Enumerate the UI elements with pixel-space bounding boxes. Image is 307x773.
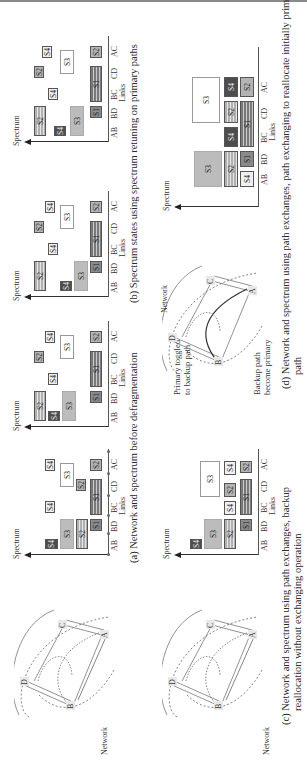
slot-s1: S1 (90, 351, 102, 387)
slot-s1: S1 (90, 261, 102, 273)
spectrum-chart-b2: Spectrum S2 S4 S3 S1 S4 S1 S2 S3 S4 S2 A… (12, 183, 122, 303)
slot-s1: S1 (90, 479, 102, 515)
slot-s2: S2 (34, 261, 46, 291)
slot-s3: S3 (200, 461, 220, 497)
y-axis (30, 554, 108, 555)
slot-s2: S2 (240, 77, 254, 97)
x-tick-ac: AC (110, 459, 119, 470)
x-axis-label: Links (118, 84, 127, 102)
spectrum-chart-a: Spectrum S4 S3 S2 S1 S4 S1 S2 S3 S4 S2 A… (12, 441, 122, 561)
x-axis-label: Links (118, 239, 127, 257)
slot-s2: S2 (76, 479, 86, 491)
spectrum-chart-b1: Spectrum S2 S4 S3 S1 S4 S1 S2 S3 S4 S2 A… (12, 313, 122, 433)
node-d-label: D (168, 679, 177, 685)
slot-s4: S4 (224, 501, 236, 515)
slot-s2: S2 (34, 351, 44, 363)
spectrum-chart-d: Spectrum S3 S2 S4 S1 S4 S1 S2 S3 S4 S2 A… (162, 33, 272, 213)
network-diagram-a: B D C A (14, 600, 124, 725)
x-tick-ab: AB (260, 540, 269, 551)
slot-s3: S3 (74, 261, 88, 291)
x-axis-label: Links (118, 497, 127, 515)
slot-s2: S2 (34, 66, 44, 78)
slot-s2: S2 (90, 459, 102, 471)
network-label-c: Network (262, 727, 271, 755)
node-a-label: A (248, 632, 257, 638)
x-tick-ab: AB (110, 127, 119, 138)
network-label-d: Network (160, 285, 169, 313)
slot-s3: S3 (204, 519, 222, 549)
x-tick-cd: CD (110, 223, 119, 234)
slot-s4: S4 (224, 127, 238, 147)
slot-s3: S3 (60, 519, 74, 549)
slot-s3: S3 (60, 205, 74, 229)
slot-s1: S1 (90, 391, 102, 403)
slot-s4: S4 (45, 539, 58, 549)
slot-s2: S2 (34, 391, 46, 421)
slot-s4: S4 (48, 411, 60, 421)
x-tick-cd: CD (110, 353, 119, 364)
x-tick-bd: BD (110, 393, 119, 404)
caption-c-line1: (c) Network and spectrum using path exch… (280, 487, 292, 725)
caption-b: (b) Spectrum states using spectrum retun… (128, 44, 140, 303)
slot-s4: S4 (60, 281, 72, 291)
x-tick-ac: AC (110, 331, 119, 342)
slot-s4: S4 (45, 459, 55, 471)
x-tick-ab: AB (110, 412, 119, 423)
slot-s3: S3 (70, 106, 84, 136)
slot-s4: S4 (45, 501, 55, 513)
x-tick-ac: AC (260, 82, 269, 93)
slot-s2: S2 (224, 151, 238, 187)
x-tick-ab: AB (110, 282, 119, 293)
figure-rotated: B D C A Network Spectrum S4 S3 S2 S1 S4 … (0, 0, 307, 773)
y-axis-label: Spectrum (12, 400, 21, 431)
node-c-label: C (58, 623, 67, 628)
node-d-label: D (168, 335, 177, 341)
y-axis-label: Spectrum (12, 270, 21, 301)
x-axis-label: Links (118, 369, 127, 387)
slot-s1: S1 (90, 221, 102, 257)
slot-s4: S4 (42, 46, 52, 58)
slot-s2: S2 (224, 483, 236, 497)
slot-s1: S1 (240, 101, 254, 147)
slot-s2: S2 (224, 101, 238, 123)
slot-s1: S1 (90, 519, 102, 531)
x-tick-cd: CD (110, 481, 119, 492)
slot-s4: S4 (224, 461, 236, 475)
x-tick-bd: BD (260, 154, 269, 165)
x-tick-cd: CD (110, 68, 119, 79)
slot-s3: S3 (60, 463, 74, 487)
slot-s4: S4 (240, 171, 254, 187)
x-tick-cd: CD (260, 481, 269, 492)
caption-c-line2: reallocation without exchanging operatio… (292, 533, 304, 711)
spectrum-chart-b3: Spectrum S2 S4 S3 S1 S4 S1 S2 S3 S4 S2 A… (12, 28, 122, 148)
y-axis-label: Spectrum (162, 180, 171, 211)
x-tick-ab: AB (110, 540, 119, 551)
slot-s4: S4 (45, 201, 55, 213)
slot-s2: S2 (34, 106, 46, 136)
x-axis-label: Links (268, 497, 277, 515)
x-tick-bd: BD (110, 108, 119, 119)
network-label-a: Network (100, 727, 109, 755)
y-axis-label: Spectrum (12, 115, 21, 146)
slot-s1: S1 (90, 106, 102, 118)
slot-s4: S4 (48, 243, 58, 255)
x-axis (108, 449, 109, 555)
caption-d-line2: path (292, 357, 304, 375)
slot-s3: S3 (60, 335, 74, 359)
slot-s1: S1 (240, 519, 252, 531)
slot-s2: S2 (90, 201, 102, 213)
slot-s2: S2 (34, 221, 44, 233)
slot-s4: S4 (48, 88, 58, 100)
x-tick-ac: AC (110, 201, 119, 212)
node-c-label: C (206, 279, 215, 284)
slot-s3: S3 (60, 50, 74, 74)
slot-s2: S2 (240, 461, 252, 473)
x-tick-bd: BD (110, 521, 119, 532)
y-axis-label: Spectrum (12, 528, 21, 559)
slot-s4: S4 (190, 539, 202, 549)
x-tick-cd: CD (260, 108, 269, 119)
slot-s2: S2 (76, 519, 88, 549)
node-b-label: B (214, 704, 223, 709)
x-tick-bd: BD (260, 521, 269, 532)
node-c-label: C (206, 623, 215, 628)
